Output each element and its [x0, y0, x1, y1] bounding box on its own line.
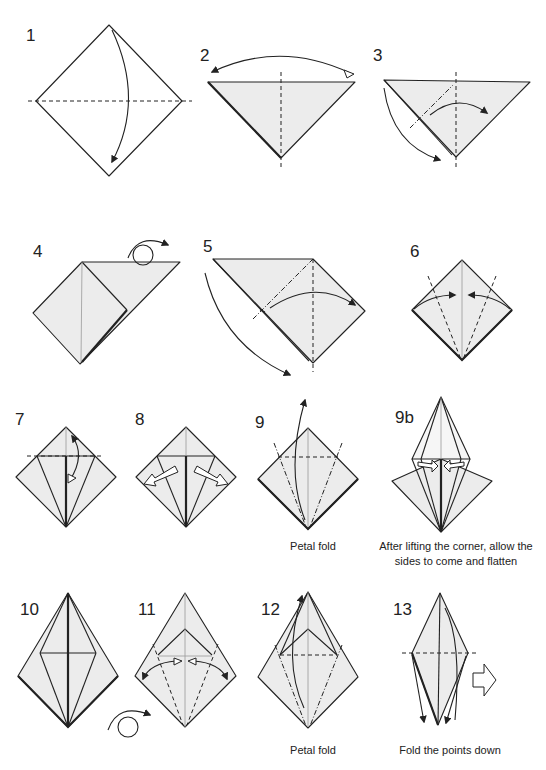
paper-triangle: [384, 80, 530, 157]
paper-bird-base: [135, 593, 236, 727]
step-11-diagram: [108, 593, 236, 737]
step-4-diagram: [33, 241, 180, 364]
diagram-canvas: [0, 0, 546, 770]
step-9-diagram: [258, 400, 358, 529]
step-8-diagram: [136, 427, 236, 527]
step-9b-diagram: [392, 397, 492, 532]
step-6-diagram: [412, 260, 512, 360]
step-10-diagram: [18, 593, 118, 727]
step-2-diagram: [208, 56, 355, 168]
paper-shape: [213, 259, 365, 363]
paper-shape: [33, 262, 180, 364]
turn-over-icon: [118, 717, 138, 737]
step-1-diagram: [28, 25, 192, 176]
hollow-arrowhead-icon: [344, 70, 354, 78]
fold-arrow-icon: [212, 56, 350, 73]
step-12-diagram: [258, 592, 358, 728]
step-3-diagram: [384, 72, 530, 168]
step-5-diagram: [205, 259, 365, 375]
step-7-diagram: [16, 427, 116, 527]
next-step-arrow-icon: [473, 664, 496, 696]
step-13-diagram: [402, 593, 496, 725]
